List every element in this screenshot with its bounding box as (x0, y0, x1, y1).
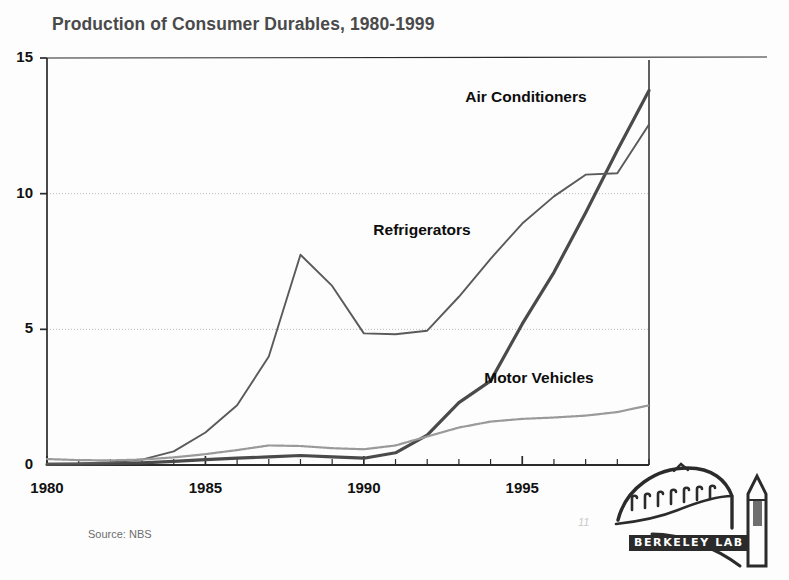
series-label-motor-vehicles: Motor Vehicles (484, 369, 593, 387)
berkeley-lab-logo: BERKELEY LAB (612, 462, 784, 574)
series-line-air-conditioners (47, 91, 649, 465)
berkeley-lab-logo-mark (612, 462, 784, 574)
plot-top-border (47, 57, 767, 58)
x-tick-label: 1990 (334, 479, 394, 496)
series-label-air-conditioners: Air Conditioners (465, 88, 586, 106)
logo-wordmark: BERKELEY LAB (629, 535, 749, 551)
y-tick-label: 0 (0, 455, 33, 472)
series-label-refrigerators: Refrigerators (373, 221, 470, 239)
series-line-refrigerators (47, 124, 649, 463)
page-number: 11 (578, 516, 589, 528)
x-tick-label: 1980 (17, 479, 77, 496)
chart-axes (47, 57, 767, 465)
x-tick-label: 1985 (175, 479, 235, 496)
slide-canvas: Production of Consumer Durables, 1980-19… (0, 0, 789, 580)
x-tick-label: 1995 (492, 479, 552, 496)
y-tick-label: 15 (0, 48, 33, 65)
chart-series-group (47, 91, 649, 465)
chart-tick-marks (40, 58, 649, 465)
series-line-motor-vehicles (47, 405, 649, 460)
source-note: Source: NBS (88, 528, 152, 540)
y-tick-label: 10 (0, 184, 33, 201)
y-tick-label: 5 (0, 319, 33, 336)
